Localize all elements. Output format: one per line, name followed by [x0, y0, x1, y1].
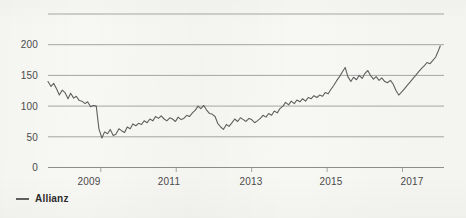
data-line-allianz: [48, 46, 440, 138]
legend-line-marker-icon: [16, 198, 29, 200]
horizontal-gridlines: [48, 14, 444, 168]
stock-price-line-chart: 200 150 100 50 0 2009 2011 2013 2015 201…: [0, 0, 466, 218]
legend-label-allianz: Allianz: [35, 193, 69, 204]
plot-area: [0, 0, 466, 218]
x-axis-ticks: [101, 168, 403, 173]
chart-legend: Allianz: [16, 193, 69, 204]
